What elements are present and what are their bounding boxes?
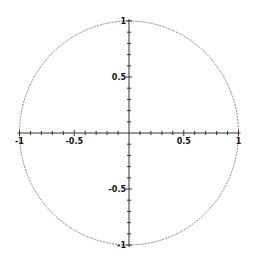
y-tick-label: 0.5 [112, 73, 127, 82]
axes: -1-0.50.5110.5-0.5-1 [15, 17, 242, 250]
y-tick-label: -0.5 [109, 185, 127, 194]
y-tick-label: -1 [117, 241, 126, 250]
y-tick-label: 1 [120, 17, 126, 26]
x-tick-label: 1 [236, 137, 242, 146]
x-tick-label: -0.5 [66, 137, 84, 146]
x-tick-label: 0.5 [177, 137, 192, 146]
x-tick-label: -1 [15, 137, 24, 146]
unit-circle-plot: -1-0.50.5110.5-0.5-1 [0, 0, 253, 260]
